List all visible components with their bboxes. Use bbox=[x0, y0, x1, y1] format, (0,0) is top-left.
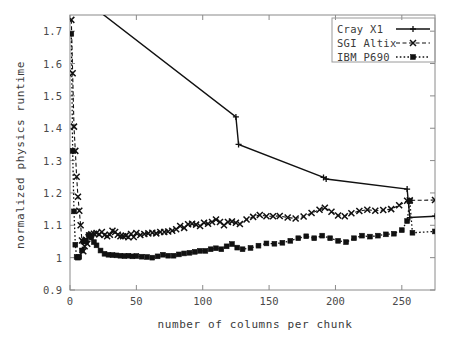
series-marker bbox=[94, 243, 99, 248]
series-marker bbox=[410, 230, 415, 235]
legend-label-2: SGI Altix bbox=[337, 37, 397, 49]
series-marker bbox=[272, 241, 277, 246]
series-marker bbox=[192, 249, 197, 254]
series-marker bbox=[77, 255, 82, 260]
x-tick-label: 200 bbox=[326, 295, 345, 307]
y-tick-label: 1 bbox=[56, 252, 62, 264]
series-marker bbox=[161, 252, 166, 257]
series-marker bbox=[171, 253, 176, 258]
series-marker bbox=[235, 245, 240, 250]
y-tick-label: 1.2 bbox=[43, 187, 62, 199]
series-marker bbox=[320, 233, 325, 238]
y-tick-label: 1.4 bbox=[43, 122, 62, 134]
series-marker bbox=[344, 240, 349, 245]
series-marker bbox=[407, 199, 412, 204]
series-marker bbox=[73, 242, 78, 247]
series-marker bbox=[224, 244, 229, 249]
x-tick-label: 0 bbox=[67, 295, 73, 307]
y-tick-label: 1.5 bbox=[43, 90, 62, 102]
chart-figure: 0.911.11.21.31.41.51.61.7 05010015020025… bbox=[0, 0, 456, 342]
series-marker bbox=[214, 246, 219, 251]
series-marker bbox=[264, 241, 269, 246]
series-marker bbox=[256, 243, 261, 248]
series-marker bbox=[399, 228, 404, 233]
x-tick-label: 150 bbox=[260, 295, 279, 307]
y-tick-label: 1.1 bbox=[43, 219, 62, 231]
series-marker bbox=[155, 254, 160, 259]
legend-label-1: Cray X1 bbox=[337, 23, 383, 35]
x-axis-title: number of columns per chunk bbox=[157, 318, 352, 331]
series-marker bbox=[328, 236, 333, 241]
series-marker bbox=[368, 234, 373, 239]
series-marker bbox=[391, 231, 396, 236]
series-marker bbox=[240, 247, 245, 252]
series-marker bbox=[176, 252, 181, 257]
series-marker bbox=[70, 148, 75, 153]
series-marker bbox=[360, 233, 365, 238]
series-marker bbox=[336, 238, 341, 243]
series-marker bbox=[383, 232, 388, 237]
series-marker bbox=[166, 253, 171, 258]
series-marker bbox=[198, 248, 203, 253]
series-marker bbox=[280, 240, 285, 245]
series-marker bbox=[182, 251, 187, 256]
x-tick-label: 100 bbox=[193, 295, 212, 307]
series-marker bbox=[150, 255, 155, 260]
series-marker bbox=[219, 247, 224, 252]
series-marker bbox=[84, 239, 89, 244]
y-tick-label: 1.6 bbox=[43, 58, 62, 70]
series-marker bbox=[296, 236, 301, 241]
x-tick-label: 50 bbox=[130, 295, 143, 307]
series-marker bbox=[72, 209, 77, 214]
series-marker bbox=[248, 246, 253, 251]
series-marker bbox=[288, 238, 293, 243]
series-marker bbox=[208, 247, 213, 252]
series-marker bbox=[134, 254, 139, 259]
x-tick-label: 250 bbox=[392, 295, 411, 307]
y-tick-label: 0.9 bbox=[43, 284, 62, 296]
series-marker bbox=[139, 254, 144, 259]
y-tick-label: 1.3 bbox=[43, 155, 62, 167]
series-marker bbox=[187, 250, 192, 255]
series-marker bbox=[376, 233, 381, 238]
legend-label-3: IBM P690 bbox=[337, 51, 390, 63]
series-marker bbox=[89, 235, 94, 240]
series-marker bbox=[405, 219, 410, 224]
y-tick-label: 1.7 bbox=[43, 25, 62, 37]
legend-sample-marker-3 bbox=[411, 55, 416, 60]
y-axis-title: normalized physics runtime bbox=[14, 61, 27, 249]
series-marker bbox=[145, 255, 150, 260]
series-marker bbox=[304, 234, 309, 239]
series-marker bbox=[203, 248, 208, 253]
series-marker bbox=[352, 236, 357, 241]
series-marker bbox=[230, 242, 235, 247]
series-marker bbox=[312, 236, 317, 241]
physics-runtime-line-chart: 0.911.11.21.31.41.51.61.7 05010015020025… bbox=[0, 0, 456, 342]
series-marker bbox=[80, 248, 85, 253]
